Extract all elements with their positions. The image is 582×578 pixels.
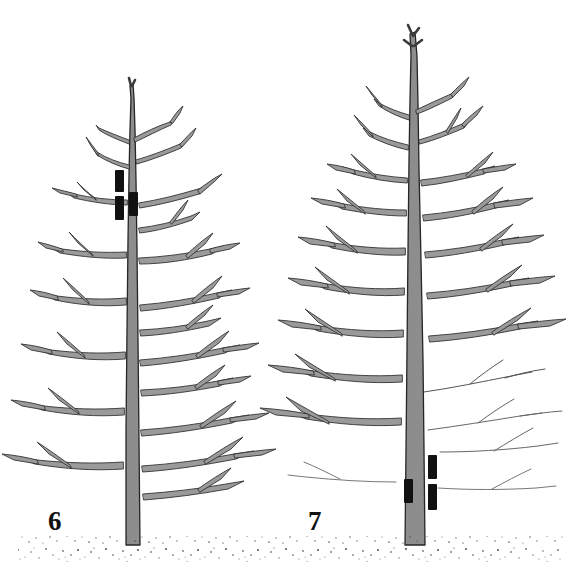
pruning-mark-lower-left	[115, 196, 124, 220]
pruning-mark-upper-right	[428, 455, 437, 479]
figure-label-7: 7	[308, 508, 322, 535]
figure-label-6: 6	[48, 508, 62, 535]
pruning-mark-lower-right	[129, 192, 138, 216]
figure-root: .br { stroke:#2b2b2b; stroke-linecap:rou…	[0, 0, 582, 578]
pruning-mark-lower-right	[428, 484, 437, 510]
ground-stipple	[18, 536, 564, 562]
pruning-mark-left	[404, 479, 413, 503]
tree-illustration-svg: .br { stroke:#2b2b2b; stroke-linecap:rou…	[0, 0, 582, 578]
pruning-mark-upper-left	[115, 170, 124, 192]
